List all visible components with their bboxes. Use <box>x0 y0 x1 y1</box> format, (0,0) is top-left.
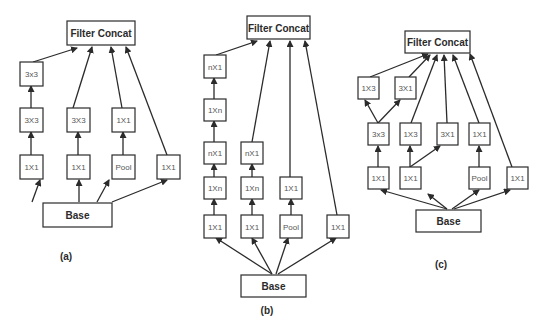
layer-node: 1X1 <box>112 108 135 132</box>
layer-node: 1Xn <box>204 99 226 121</box>
layer-node: 1X1 <box>204 215 226 238</box>
arrow-icon <box>252 41 270 142</box>
node-label: 1X1 <box>403 174 418 183</box>
arrow-icon <box>216 238 272 274</box>
diagram-canvas: Filter Concat3x33X33X31X11X11X1Pool1X1Ba… <box>0 0 545 333</box>
arrow-icon <box>112 180 167 202</box>
node-label: 1X1 <box>245 223 260 232</box>
node-label: 3X3 <box>71 116 86 125</box>
filter-concat-node: Filter Concat <box>67 21 135 45</box>
nodes-layer: Filter Concat3x33X33X31X11X11X1Pool1X1Ba… <box>20 16 528 297</box>
arrow-icon <box>453 55 479 123</box>
node-label: 1X1 <box>24 163 39 172</box>
layer-node: Pool <box>280 215 302 238</box>
arrow-icon <box>378 100 400 123</box>
base-node: Base <box>416 210 481 232</box>
arrow-icon <box>444 55 447 123</box>
arrow-icon <box>126 47 167 155</box>
layer-node: Pool <box>112 155 135 179</box>
node-label: 1X1 <box>371 174 386 183</box>
node-label: 1X1 <box>331 223 346 232</box>
node-label: 1X1 <box>510 174 525 183</box>
layer-node: 3X3 <box>67 108 90 132</box>
node-label: 1Xn <box>245 184 259 193</box>
diagram-b-nodes: Filter ConcatnX11XnnX1nX11Xn1Xn1X11X11X1… <box>204 16 349 297</box>
arrow-icon <box>216 41 257 55</box>
arrow-icon <box>97 180 109 202</box>
layer-node: 1X1 <box>280 177 302 199</box>
layer-node: 1X1 <box>157 155 180 179</box>
node-label: Filter Concat <box>70 28 132 39</box>
layer-node: Pool <box>469 167 490 189</box>
node-label: Pool <box>283 223 299 232</box>
arrow-icon <box>365 100 378 123</box>
node-label: 1X1 <box>161 163 176 172</box>
base-node: Base <box>43 203 112 227</box>
diagram-caption-c: (c) <box>435 259 447 270</box>
arrow-icon <box>305 41 337 215</box>
arrow-icon <box>252 238 272 274</box>
node-label: nX1 <box>245 149 260 158</box>
diagram-b-edges <box>214 41 337 274</box>
layer-node: 1X1 <box>400 167 421 189</box>
filter-concat-node: Filter Concat <box>405 31 470 53</box>
layer-node: nX1 <box>204 142 226 164</box>
inception-module-diagrams: Filter Concat3x33X33X31X11X11X1Pool1X1Ba… <box>0 0 545 333</box>
filter-concat-node: Filter Concat <box>247 16 310 39</box>
node-label: 3x3 <box>372 130 385 139</box>
node-label: 3X1 <box>398 84 413 93</box>
layer-node: 3X1 <box>437 123 458 145</box>
node-label: 3x3 <box>25 70 38 79</box>
diagram-caption-a: (a) <box>60 251 72 262</box>
arrow-icon <box>452 190 479 209</box>
base-node: Base <box>241 275 306 297</box>
node-label: nX1 <box>208 149 223 158</box>
diagram-caption-b: (b) <box>261 305 274 316</box>
layer-node: 1X1 <box>368 167 389 189</box>
node-label: 1X1 <box>208 223 223 232</box>
layer-node: nX1 <box>204 55 226 78</box>
diagram-c-nodes: Filter Concat1X33X13x31X33X11X11X11X1Poo… <box>358 31 528 232</box>
layer-node: 3X1 <box>395 77 416 99</box>
layer-node: 1Xn <box>241 177 263 199</box>
layer-node: 1X3 <box>358 77 379 99</box>
layer-node: 1X1 <box>241 215 263 238</box>
layer-node: 3x3 <box>20 62 43 86</box>
layer-node: 1X1 <box>67 155 90 179</box>
arrow-icon <box>410 146 440 167</box>
node-label: nX1 <box>208 63 223 72</box>
node-label: 1X1 <box>116 116 131 125</box>
arrow-icon <box>409 55 430 77</box>
node-label: Pool <box>115 163 131 172</box>
node-label: 1Xn <box>208 184 222 193</box>
node-label: 1X3 <box>361 84 376 93</box>
layer-node: 1X1 <box>469 123 490 145</box>
node-label: 1X1 <box>472 130 487 139</box>
arrow-icon <box>73 47 92 108</box>
node-label: Pool <box>471 174 487 183</box>
layer-node: 3x3 <box>368 123 389 145</box>
edges-layer <box>31 41 512 274</box>
arrow-icon <box>454 190 510 209</box>
layer-node: 1X1 <box>327 215 349 238</box>
node-label: 3X3 <box>24 116 39 125</box>
node-label: Base <box>437 216 461 227</box>
layer-node: 1X1 <box>507 167 528 189</box>
layer-node: nX1 <box>241 142 263 164</box>
layer-node: 1X3 <box>400 123 421 145</box>
node-label: 3X1 <box>440 130 455 139</box>
arrow-icon <box>33 48 77 62</box>
layer-node: 3X3 <box>20 108 43 132</box>
arrow-icon <box>381 190 447 209</box>
node-label: Base <box>66 210 90 221</box>
arrow-icon <box>470 54 512 167</box>
node-label: 1X1 <box>284 184 299 193</box>
arrow-icon <box>32 180 40 202</box>
node-label: Filter Concat <box>407 37 469 48</box>
layer-node: 1Xn <box>204 177 226 199</box>
layer-node: 1X1 <box>20 155 43 179</box>
node-label: Base <box>262 281 286 292</box>
node-label: 1X1 <box>71 163 86 172</box>
node-label: 1Xn <box>208 106 222 115</box>
arrow-icon <box>111 47 122 108</box>
